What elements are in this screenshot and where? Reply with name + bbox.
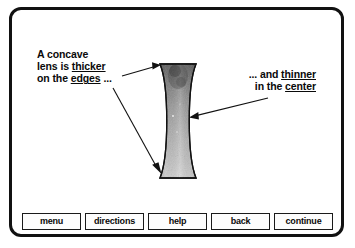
concave-lens-edges-callout: A concave lens is thicker on the edges .…	[37, 48, 112, 85]
edges-callout-line-1: A concave	[37, 48, 112, 60]
help-button[interactable]: help	[148, 213, 207, 230]
edges-callout-line-2: lens is thicker	[37, 60, 112, 72]
menu-button[interactable]: menu	[22, 213, 81, 230]
center-callout-line-1: ... and thinner	[214, 68, 316, 80]
diagram-stage: A concave lens is thicker on the edges .…	[0, 0, 355, 248]
edges-callout-line-3: on the edges ...	[37, 72, 112, 84]
concave-lens-illustration	[156, 60, 200, 182]
center-callout-line-2: in the center	[214, 80, 316, 92]
navigation-button-bar: menu directions help back continue	[22, 213, 333, 230]
directions-button[interactable]: directions	[85, 213, 144, 230]
continue-button[interactable]: continue	[274, 213, 333, 230]
concave-lens-center-callout: ... and thinner in the center	[214, 68, 316, 92]
back-button[interactable]: back	[211, 213, 270, 230]
app-screen: A concave lens is thicker on the edges .…	[0, 0, 355, 248]
arrow-to-lens-bottom-edge	[113, 88, 162, 174]
arrow-to-lens-center	[189, 98, 268, 119]
